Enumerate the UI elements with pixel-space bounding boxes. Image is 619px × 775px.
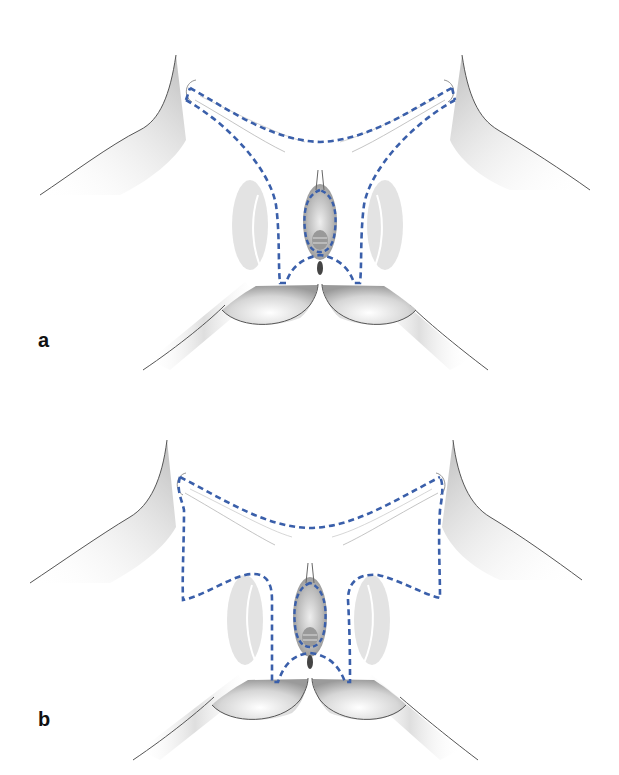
anus-mark [317, 261, 323, 275]
panel-label-b: b [38, 709, 50, 729]
labia-shadow-left [232, 180, 268, 270]
inguinal-line-right [343, 493, 438, 545]
incision-top-curve [180, 477, 440, 528]
outer-contour-left [40, 55, 186, 195]
panel-b: b [0, 385, 619, 775]
labia-shadow-left [227, 575, 263, 665]
leg-left [143, 282, 258, 370]
fold-right [436, 473, 445, 495]
panel-a-illustration [0, 0, 619, 385]
labia-shadow-right [367, 180, 403, 270]
central-anatomy [303, 170, 337, 260]
panel-a: a [0, 0, 619, 385]
leg-left [133, 675, 250, 760]
anus-mark [307, 655, 313, 669]
outer-contour-right [442, 440, 582, 580]
outer-contour-left [30, 440, 176, 583]
panel-label-a: a [38, 330, 49, 350]
panel-b-illustration [0, 385, 619, 775]
buttocks [222, 284, 416, 325]
central-anatomy [293, 563, 327, 657]
buttocks [212, 678, 406, 720]
outer-contour-right [450, 55, 590, 190]
